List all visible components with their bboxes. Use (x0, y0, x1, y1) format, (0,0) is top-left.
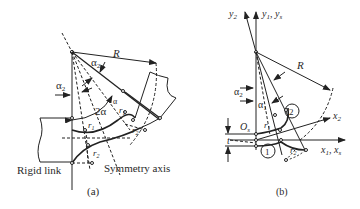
label-alpha1: α1 (258, 99, 267, 112)
angle-arrow (274, 72, 285, 80)
dashed-extension-line (62, 33, 72, 52)
label-r1-lower: r1 (88, 120, 95, 131)
flexure-hinge-diagram: R α2 α2 2α α r1 r1 r2 r2 Rigid link Symm… (0, 0, 360, 209)
label-circle-1: 1 (265, 147, 270, 157)
label-R: R (296, 59, 304, 71)
panel-b (225, 12, 345, 162)
label-y2: y2 (228, 8, 237, 21)
label-two-alpha: 2α (95, 105, 107, 117)
label-symmetry-axis: Symmetry axis (104, 162, 170, 174)
outer-dashed-arc (300, 88, 333, 140)
panel-b-labels: y2 y1, ys R α2 α1 Os t r1 r2 x2 x1, xs 2… (227, 8, 341, 198)
radius-arrow (256, 52, 330, 90)
caption-b: (b) (276, 186, 288, 198)
angle-arrow (100, 62, 105, 72)
label-r2: r2 (290, 145, 297, 156)
label-Os: Os (240, 121, 250, 134)
rigid-link-left (38, 118, 72, 162)
label-r1-upper: r1 (119, 105, 126, 116)
flexure-upper-curve (256, 108, 288, 134)
label-alpha2-top: α2 (91, 56, 101, 70)
label-circle-2: 2 (289, 107, 294, 117)
label-R: R (112, 47, 120, 59)
y2-axis (245, 12, 256, 52)
label-t: t (227, 135, 230, 146)
caption-a: (a) (87, 185, 100, 198)
label-alpha2-left: α2 (56, 79, 66, 93)
label-r1: r1 (264, 120, 271, 131)
label-y1-ys: y1, ys (261, 8, 282, 21)
rigid-link-right (135, 72, 176, 128)
dashed-ray (256, 52, 270, 135)
flexure-lower-curve (72, 128, 140, 163)
label-x2: x2 (332, 110, 341, 123)
label-rigid-link: Rigid link (17, 164, 62, 176)
label-x1-xs: x1, xs (320, 144, 341, 157)
label-r2-lower: r2 (93, 148, 100, 159)
label-r2-right: r2 (132, 125, 139, 136)
panel-a-labels: R α2 α2 2α α r1 r1 r2 r2 Rigid link Symm… (17, 47, 170, 198)
label-alpha: α (113, 97, 118, 106)
